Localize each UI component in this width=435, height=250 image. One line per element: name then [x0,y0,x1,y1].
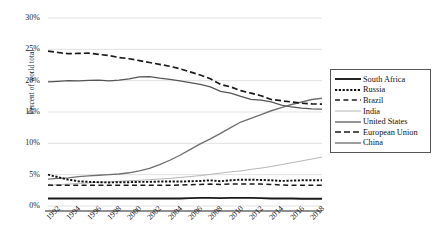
series-line [48,77,322,110]
legend-item[interactable]: European Union [334,127,427,138]
legend-item-label: European Union [362,128,418,137]
legend-swatch-icon [334,127,362,137]
legend-item[interactable]: India [334,106,427,117]
y-axis-tick-label: 5% [12,171,40,179]
y-axis-tick-label: 0% [12,202,40,210]
legend-item[interactable]: China [334,138,427,149]
legend-item-label: China [362,138,383,147]
y-axis-tick-label: 15% [12,108,40,116]
legend-swatch-icon [334,106,362,116]
y-axis-tick-label: 10% [12,139,40,147]
legend-item-label: South Africa [362,75,405,84]
series-line [48,51,322,104]
chart-container: Percent of world total 0%5%10%15%20%25%3… [0,0,435,250]
y-axis-tick-label: 30% [12,14,40,22]
series-line [48,198,322,199]
legend-item[interactable]: Brazil [334,95,427,106]
series-line [48,98,322,179]
legend-swatch-icon [334,138,362,148]
legend-item-label: Russia [362,85,385,94]
series-line [48,184,322,185]
chart-legend: South AfricaRussiaBrazilIndiaUnited Stat… [330,69,431,153]
legend-item-label: United States [362,117,407,126]
legend-swatch-icon [334,85,362,95]
legend-item[interactable]: South Africa [334,74,427,85]
y-axis-tick-label: 20% [12,77,40,85]
legend-swatch-icon [334,117,362,127]
legend-item-label: Brazil [362,96,383,105]
legend-item[interactable]: Russia [334,85,427,96]
legend-item[interactable]: United States [334,116,427,127]
series-lines [48,51,322,199]
y-axis-tick-label: 25% [12,45,40,53]
gridlines [48,18,322,206]
legend-swatch-icon [334,74,362,84]
legend-swatch-icon [334,95,362,105]
legend-item-label: India [362,107,380,116]
